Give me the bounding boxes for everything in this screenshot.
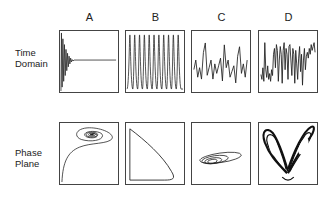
limit-cycle-plot	[126, 123, 184, 184]
row-label-line1: Time	[15, 47, 48, 58]
phase-panel-A	[59, 122, 119, 185]
column-label-A: A	[59, 11, 120, 23]
column-label-D: D	[258, 11, 319, 23]
damped-oscillation-plot	[60, 31, 118, 92]
time-panel-B	[125, 30, 185, 93]
phase-panel-B	[125, 122, 185, 185]
column-label-C: C	[191, 11, 252, 23]
time-panel-C	[191, 30, 251, 93]
column-label-B: B	[125, 11, 186, 23]
time-panel-D	[258, 30, 318, 93]
row-label-line1: Phase	[15, 147, 42, 158]
phase-panel-C	[191, 122, 251, 185]
row-label-time-domain: Time Domain	[15, 47, 48, 69]
torus-loops-plot	[192, 123, 250, 184]
spiral-fixed-point-plot	[60, 123, 118, 184]
chaotic-plot	[259, 31, 317, 92]
row-label-line2: Plane	[15, 158, 42, 169]
phase-panel-D	[258, 122, 318, 185]
strange-attractor-plot	[259, 123, 317, 184]
row-label-phase-plane: Phase Plane	[15, 147, 42, 169]
periodic-spikes-plot	[126, 31, 184, 92]
quasi-periodic-plot	[192, 31, 250, 92]
time-panel-A	[59, 30, 119, 93]
row-label-line2: Domain	[15, 58, 48, 69]
